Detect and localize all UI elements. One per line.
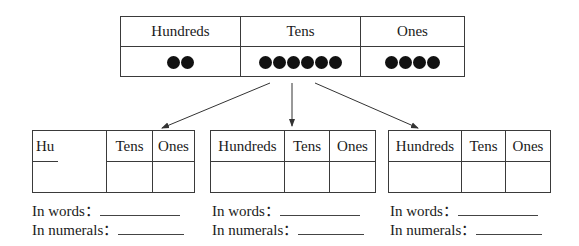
dot-icon bbox=[399, 56, 412, 69]
words-blank[interactable] bbox=[280, 203, 360, 216]
numerals-label: In numerals： bbox=[32, 222, 118, 238]
tens-dots-cell bbox=[241, 47, 361, 77]
words-blank[interactable] bbox=[458, 203, 538, 216]
dot-icon bbox=[315, 56, 328, 69]
place-value-chart-top: Hundreds Tens Ones bbox=[120, 16, 465, 77]
header-ones: Ones bbox=[506, 131, 551, 162]
words-answer-1: In words： bbox=[32, 199, 180, 220]
header-hundreds: Hundreds bbox=[121, 17, 241, 47]
place-value-table-1: Hu Tens Ones bbox=[32, 130, 195, 193]
dots-row bbox=[121, 47, 465, 77]
tens-dots bbox=[259, 56, 343, 69]
ones-input-cell[interactable] bbox=[330, 162, 376, 193]
hundreds-dots bbox=[167, 56, 195, 69]
dot-icon bbox=[273, 56, 286, 69]
hundreds-input-cell[interactable] bbox=[211, 162, 285, 193]
arrow-left-icon bbox=[162, 83, 270, 128]
dot-icon bbox=[181, 56, 194, 69]
words-answer-3: In words： bbox=[390, 199, 538, 220]
tens-input-cell[interactable] bbox=[107, 162, 153, 193]
ones-dots bbox=[385, 56, 441, 69]
numerals-answer-2: In numerals： bbox=[212, 218, 364, 239]
dot-icon bbox=[301, 56, 314, 69]
header-hundreds: Hundreds bbox=[389, 131, 462, 162]
dot-icon bbox=[167, 56, 180, 69]
ones-input-cell[interactable] bbox=[506, 162, 551, 193]
scan-artifact bbox=[58, 131, 106, 163]
numerals-answer-3: In numerals： bbox=[390, 218, 542, 239]
header-hundreds: Hundreds bbox=[211, 131, 285, 162]
header-ones: Ones bbox=[330, 131, 376, 162]
ones-input-cell[interactable] bbox=[153, 162, 195, 193]
place-value-table-2: Hundreds Tens Ones bbox=[210, 130, 376, 193]
numerals-label: In numerals： bbox=[390, 222, 476, 238]
header-tens: Tens bbox=[107, 131, 153, 162]
dot-icon bbox=[287, 56, 300, 69]
dot-icon bbox=[329, 56, 342, 69]
hundreds-input-cell[interactable] bbox=[33, 162, 107, 193]
dot-icon bbox=[413, 56, 426, 69]
header-tens: Tens bbox=[285, 131, 330, 162]
numerals-answer-1: In numerals： bbox=[32, 218, 184, 239]
numerals-label: In numerals： bbox=[212, 222, 298, 238]
numerals-blank[interactable] bbox=[298, 222, 364, 235]
tens-input-cell[interactable] bbox=[462, 162, 506, 193]
header-row: Hundreds Tens Ones bbox=[121, 17, 465, 47]
ones-dots-cell bbox=[361, 47, 465, 77]
dot-icon bbox=[259, 56, 272, 69]
words-label: In words： bbox=[212, 203, 280, 219]
tens-input-cell[interactable] bbox=[285, 162, 330, 193]
words-blank[interactable] bbox=[100, 203, 180, 216]
words-label: In words： bbox=[390, 203, 458, 219]
numerals-blank[interactable] bbox=[118, 222, 184, 235]
header-ones: Ones bbox=[153, 131, 195, 162]
header-tens: Tens bbox=[462, 131, 506, 162]
hundreds-dots-cell bbox=[121, 47, 241, 77]
dot-icon bbox=[385, 56, 398, 69]
place-value-table-3: Hundreds Tens Ones bbox=[388, 130, 551, 193]
words-answer-2: In words： bbox=[212, 199, 360, 220]
numerals-blank[interactable] bbox=[476, 222, 542, 235]
arrow-right-icon bbox=[315, 83, 418, 128]
words-label: In words： bbox=[32, 203, 100, 219]
header-ones: Ones bbox=[361, 17, 465, 47]
hundreds-input-cell[interactable] bbox=[389, 162, 462, 193]
dot-icon bbox=[427, 56, 440, 69]
header-tens: Tens bbox=[241, 17, 361, 47]
